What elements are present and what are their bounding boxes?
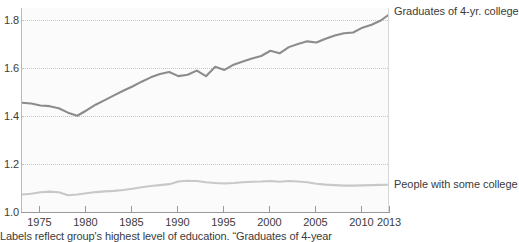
x-tick-label-1995: 1995 (211, 216, 235, 228)
x-tick-label-1985: 1985 (119, 216, 143, 228)
chart-figure: 1.01.21.41.61.8 197519801985199019952000… (0, 0, 519, 242)
x-tick-label-1980: 1980 (73, 216, 97, 228)
x-tick-mark-2005 (315, 206, 316, 213)
x-tick-label-1990: 1990 (165, 216, 189, 228)
x-tick-mark-2000 (269, 206, 270, 213)
series-label-graduates-of-4yr-college: Graduates of 4-yr. college (394, 5, 519, 17)
x-tick-mark-1985 (131, 206, 132, 213)
x-tick-label-2010: 2010 (349, 216, 373, 228)
x-tick-mark-1980 (85, 206, 86, 213)
x-tick-mark-1990 (177, 206, 178, 213)
chart-footnote: Labels reflect group's highest level of … (0, 230, 519, 242)
x-tick-label-2013: 2013 (377, 216, 401, 228)
x-tick-label-2005: 2005 (303, 216, 327, 228)
x-tick-mark-2013 (389, 206, 390, 213)
x-tick-mark-2010 (361, 206, 362, 213)
x-tick-mark-1995 (223, 206, 224, 213)
x-tick-label-2000: 2000 (257, 216, 281, 228)
x-axis: 197519801985199019952000200520102013 (0, 0, 519, 242)
series-label-people-with-some-college: People with some college (394, 178, 518, 190)
x-tick-label-1975: 1975 (27, 216, 51, 228)
x-tick-mark-1975 (39, 206, 40, 213)
